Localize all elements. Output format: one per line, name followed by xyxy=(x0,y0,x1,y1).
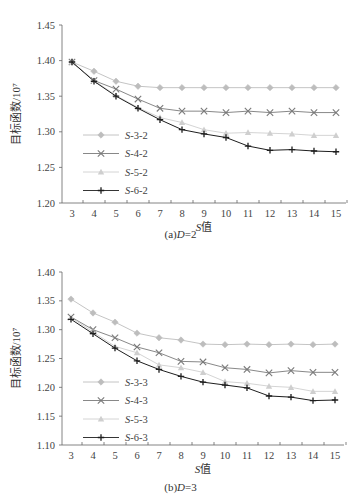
chart-d3-plot: 1.101.151.201.251.301.351.40345678910111… xyxy=(0,250,361,503)
x-tick-label: 3 xyxy=(69,208,74,219)
legend-item: S-5-3 xyxy=(83,414,148,425)
x-tick-label: 6 xyxy=(134,450,139,461)
legend-label: S-3-2 xyxy=(125,130,148,141)
diamond-marker xyxy=(201,84,207,90)
plus-marker xyxy=(200,379,206,385)
y-tick-label: 1.40 xyxy=(37,55,55,66)
x-tick-label: 9 xyxy=(200,450,205,461)
plus-marker xyxy=(98,187,104,193)
chart-d2-plot: 1.201.251.301.351.401.453456789101112131… xyxy=(0,0,361,250)
plus-marker xyxy=(178,373,184,379)
diamond-marker xyxy=(68,296,74,302)
x-tick-label: 3 xyxy=(68,450,73,461)
x-tick-label: 5 xyxy=(113,208,118,219)
legend-label: S-6-3 xyxy=(125,432,148,443)
diamond-marker xyxy=(267,84,273,90)
plus-marker xyxy=(98,434,104,440)
x-tick-label: 14 xyxy=(308,450,319,461)
y-tick-label: 1.25 xyxy=(37,162,55,173)
diamond-marker xyxy=(179,84,185,90)
x-marker xyxy=(156,350,162,356)
chart-d2: 1.201.251.301.351.401.453456789101112131… xyxy=(0,0,361,250)
diamond-marker xyxy=(223,84,229,90)
x-tick-label: 11 xyxy=(243,208,253,219)
diamond-marker xyxy=(310,341,316,347)
plus-marker xyxy=(245,143,251,149)
plus-marker xyxy=(112,345,118,351)
legend-item: S-3-3 xyxy=(83,377,148,388)
legend: S-3-3S-4-3S-5-3S-6-3 xyxy=(83,377,148,444)
y-tick-label: 1.15 xyxy=(37,411,55,422)
diamond-marker xyxy=(245,84,251,90)
series-S-6-2 xyxy=(69,59,339,155)
x-marker xyxy=(134,344,140,350)
series-S-6-3 xyxy=(68,316,338,404)
series-line xyxy=(71,299,335,345)
x-tick-label: 5 xyxy=(112,450,117,461)
x-tick-label: 13 xyxy=(286,450,297,461)
plus-marker xyxy=(289,146,295,152)
diamond-marker xyxy=(134,330,140,336)
plus-marker xyxy=(288,394,294,400)
series-line xyxy=(72,62,336,88)
diamond-marker xyxy=(90,310,96,316)
diamond-marker xyxy=(311,84,317,90)
x-tick-label: 12 xyxy=(264,450,275,461)
x-marker xyxy=(135,96,141,102)
legend-label: S-6-2 xyxy=(125,185,148,196)
diamond-marker xyxy=(178,337,184,343)
diamond-marker xyxy=(288,341,294,347)
x-marker xyxy=(113,86,119,92)
plus-marker xyxy=(311,148,317,154)
x-marker xyxy=(112,335,118,341)
y-tick-label: 1.20 xyxy=(37,382,55,393)
x-tick-label: 15 xyxy=(331,208,342,219)
x-tick-label: 14 xyxy=(309,208,320,219)
x-tick-label: 10 xyxy=(221,208,232,219)
x-tick-label: 7 xyxy=(157,208,162,219)
legend-item: S-3-2 xyxy=(83,130,148,141)
x-tick-label: 6 xyxy=(135,208,140,219)
diamond-marker xyxy=(98,132,104,138)
legend-item: S-5-2 xyxy=(83,167,148,178)
plus-marker xyxy=(68,316,74,322)
y-tick-label: 1.25 xyxy=(37,353,55,364)
caption-variable: D xyxy=(177,481,185,493)
x-tick-label: 15 xyxy=(330,450,341,461)
diamond-marker xyxy=(332,341,338,347)
diamond-marker xyxy=(244,341,250,347)
legend-label: S-3-3 xyxy=(125,377,148,388)
y-tick-label: 1.35 xyxy=(37,91,55,102)
diamond-marker xyxy=(135,83,141,89)
x-tick-label: 11 xyxy=(242,450,252,461)
legend-item: S-6-3 xyxy=(83,432,148,443)
x-axis-label: S值 xyxy=(195,463,212,475)
x-tick-label: 12 xyxy=(265,208,276,219)
diamond-marker xyxy=(91,68,97,74)
legend-item: S-6-2 xyxy=(83,185,148,196)
x-tick-label: 13 xyxy=(287,208,298,219)
caption-value: =3 xyxy=(185,481,197,493)
x-tick-label: 4 xyxy=(90,450,96,461)
series-line xyxy=(72,62,336,135)
legend-label: S-5-2 xyxy=(125,167,148,178)
diamond-marker xyxy=(266,341,272,347)
series-S-3-3 xyxy=(68,296,338,348)
x-tick-label: 8 xyxy=(179,208,184,219)
series-S-5-2 xyxy=(69,59,339,138)
diamond-marker xyxy=(113,78,119,84)
x-tick-label: 8 xyxy=(178,450,183,461)
y-axis-label: 目标函数/10⁷ xyxy=(9,83,22,145)
diamond-marker xyxy=(98,379,104,385)
y-tick-label: 1.40 xyxy=(37,267,55,278)
legend-item: S-4-3 xyxy=(83,395,148,406)
plus-marker xyxy=(266,393,272,399)
y-tick-label: 1.30 xyxy=(37,126,55,137)
y-axis-label: 目标函数/10⁷ xyxy=(9,327,22,389)
y-tick-label: 1.35 xyxy=(37,295,55,306)
plus-marker xyxy=(310,397,316,403)
x-tick-label: 10 xyxy=(220,450,231,461)
x-tick-label: 4 xyxy=(91,208,97,219)
diamond-marker xyxy=(289,84,295,90)
plus-marker xyxy=(332,397,338,403)
